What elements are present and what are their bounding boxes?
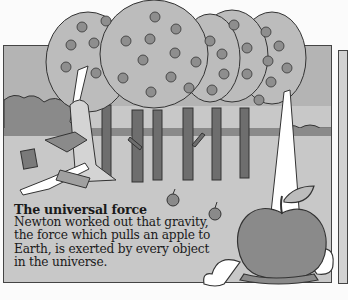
caption-block: The universal force Newton worked out th… (14, 203, 214, 269)
caption-body: Newton worked out that gravity, the forc… (14, 215, 210, 269)
